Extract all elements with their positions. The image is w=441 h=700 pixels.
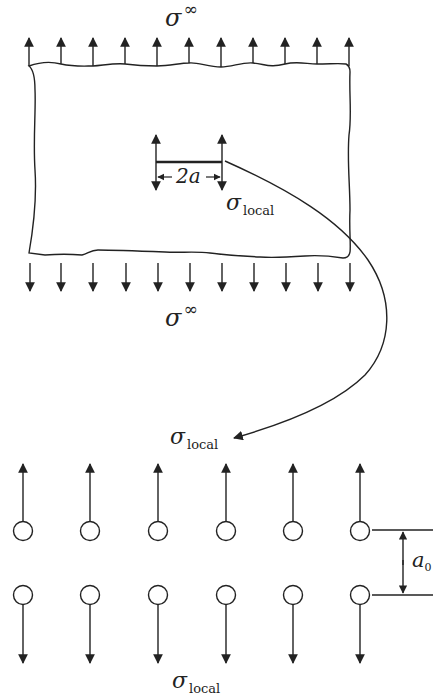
atomic-lattice	[14, 464, 434, 663]
upper-atoms	[14, 522, 370, 541]
zoom-target-local-stress-label: σlocal	[170, 424, 218, 449]
bottom-remote-stress-label: σ∞	[165, 304, 198, 332]
lower-local-stress-arrows	[23, 605, 360, 663]
bottom-remote-stress-arrows	[30, 263, 350, 291]
plate-outline	[29, 62, 350, 258]
lower-atoms	[14, 586, 370, 605]
crack-length-label: 2a	[175, 164, 202, 188]
fracture-diagram	[0, 0, 441, 700]
atom-spacing-label: a0	[412, 548, 432, 572]
atomic-bottom-local-stress-label: σlocal	[172, 668, 220, 693]
upper-local-stress-arrows	[23, 464, 360, 521]
crack-local-stress-label: σlocal	[226, 190, 274, 215]
top-remote-stress-label: σ∞	[165, 4, 198, 32]
